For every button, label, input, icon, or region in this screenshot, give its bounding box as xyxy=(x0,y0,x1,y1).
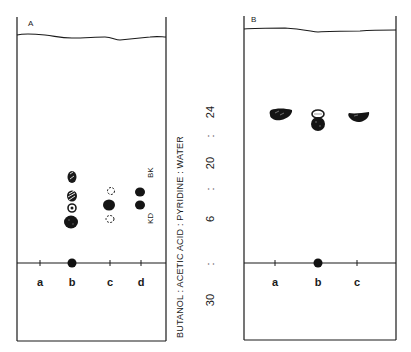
panel-b-spots xyxy=(270,109,370,132)
spot-lane-c xyxy=(348,112,369,122)
panel-a-lane-c-label: c xyxy=(107,276,113,288)
panel-b-lane-b-label: b xyxy=(315,276,322,288)
panel-a-lane-b-spots xyxy=(64,171,78,229)
ratio-acetic-acid: 6 xyxy=(204,216,216,222)
panel-b: B a b c xyxy=(244,15,396,340)
annotation-kd: KD xyxy=(146,213,155,224)
spot-core xyxy=(71,207,74,210)
solvent-system-label: BUTANOL : ACETIC ACID : PYRIDINE : WATER xyxy=(175,136,185,338)
ratio-sep-3: : xyxy=(204,134,216,137)
panel-a-lane-b-label: b xyxy=(69,276,76,288)
spot-texture xyxy=(315,121,317,123)
panel-b-lane-a-label: a xyxy=(272,276,279,288)
chromatogram-figure: A a b c d xyxy=(0,0,411,352)
panel-a-label: A xyxy=(28,19,34,28)
ratio-butanol: 30 xyxy=(204,294,216,306)
spot-texture xyxy=(72,223,74,225)
spot-faint xyxy=(108,188,115,195)
spot-faint xyxy=(106,216,114,223)
spot xyxy=(103,200,115,211)
panel-b-label: B xyxy=(251,15,256,24)
spot-texture xyxy=(68,219,70,221)
ratio-sep-2: : xyxy=(204,187,216,190)
panel-a-lane-a-label: a xyxy=(37,276,44,288)
panel-a-solvent-front xyxy=(17,34,166,40)
ratio-pyridine: 20 xyxy=(204,157,216,169)
spot-lane-b-lower xyxy=(311,117,325,131)
panel-a: A a b c d xyxy=(17,17,166,341)
spot-bk xyxy=(135,188,145,197)
panel-a-lane-d-label: d xyxy=(138,276,145,288)
panel-a-lane-d-spots xyxy=(135,188,145,210)
annotation-bk: BK xyxy=(146,167,155,178)
panel-b-solvent-front xyxy=(244,28,396,32)
panel-a-lane-c-spots xyxy=(103,188,115,223)
spot-kd xyxy=(135,201,145,210)
panel-a-origin-spot-b xyxy=(68,259,77,268)
solvent-legend: BUTANOL : ACETIC ACID : PYRIDINE : WATER… xyxy=(175,106,216,338)
ratio-water: 24 xyxy=(204,106,216,118)
panel-b-origin-spot-b xyxy=(314,259,323,268)
spot-texture xyxy=(319,125,321,127)
spot xyxy=(64,216,78,229)
ratio-sep-1: : xyxy=(204,262,216,265)
panel-b-lane-c-label: c xyxy=(354,276,360,288)
